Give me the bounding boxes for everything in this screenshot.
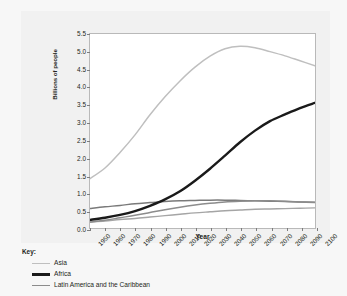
plot-card: Billions of people 5.55.04.54.03.53.02.5… [21,11,330,243]
legend-color-swatch [32,263,50,265]
y-axis-tick-mark [87,123,90,124]
x-axis-tick-mark [135,228,136,231]
legend-item-label: Asia [54,260,67,267]
x-axis-tick-label: 2100 [324,233,339,248]
y-axis-tick-mark [87,70,90,71]
plot-lines [90,34,315,228]
legend-color-swatch [32,273,50,276]
y-axis-tick-label: 1.0 [77,191,86,197]
series-line [90,103,315,220]
x-axis-tick-mark [272,228,273,231]
y-axis-tick-mark [87,141,90,142]
y-axis-title: Billions of people [51,30,58,120]
y-axis-tick-label: 5.5 [77,31,86,37]
x-axis-tick-mark [151,228,152,231]
x-axis-tick-mark [120,228,121,231]
y-axis-tick-mark [87,177,90,178]
x-axis-tick-mark [196,228,197,231]
legend-item-label: Africa [54,271,71,278]
y-axis-tick-label: 4.5 [77,66,86,72]
x-axis-tick-mark [287,228,288,231]
y-axis-tick-label: 0.5 [77,209,86,215]
y-axis-tick-mark [87,34,90,35]
x-axis-tick-mark [105,228,106,231]
x-axis-tick-mark [302,228,303,231]
x-axis-tick-mark [317,228,318,231]
y-axis-tick-mark [87,212,90,213]
y-axis-tick-label: 3.5 [77,102,86,108]
y-axis-tick-mark [87,194,90,195]
y-axis-tick-label: 2.0 [77,156,86,162]
x-axis-tick-mark [256,228,257,231]
y-axis-tick-label: 5.0 [77,49,86,55]
legend-item: Latin America and the Caribbean [22,280,322,291]
x-axis-tick-mark [241,228,242,231]
x-axis-tick-mark [90,228,91,231]
y-axis-tick-label: 2.5 [77,138,86,144]
legend-item: Asia [22,258,322,269]
y-axis-tick-label: 1.5 [77,173,86,179]
y-axis-tick-mark [87,52,90,53]
y-axis-tick-label: 3.0 [77,120,86,126]
legend: Key: AsiaAfricaLatin America and the Car… [22,248,322,291]
y-axis-tick-label: 0.0 [77,227,86,233]
legend-title: Key: [22,248,322,255]
legend-color-swatch [32,285,50,287]
y-axis-tick-mark [87,159,90,160]
plot-area: 5.55.04.54.03.53.02.52.01.51.00.50.01950… [89,33,316,229]
y-axis-tick-mark [87,87,90,88]
legend-item: Africa [22,269,322,280]
legend-rows: AsiaAfricaLatin America and the Caribbea… [22,258,322,291]
chart-figure: Billions of people 5.55.04.54.03.53.02.5… [0,0,347,296]
x-axis-tick-mark [181,228,182,231]
y-axis-tick-label: 4.0 [77,84,86,90]
series-line [90,46,315,178]
legend-item-label: Latin America and the Caribbean [54,282,150,289]
x-axis-tick-mark [211,228,212,231]
x-axis-title: Year [89,233,316,240]
x-axis-tick-mark [226,228,227,231]
x-axis-tick-mark [166,228,167,231]
y-axis-tick-mark [87,105,90,106]
